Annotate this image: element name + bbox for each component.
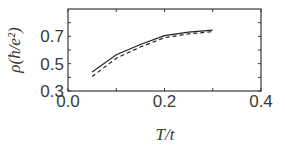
x-tick-labels: 0.00.20.4 <box>56 92 273 111</box>
x-tick-label: 0.0 <box>56 92 80 111</box>
x-tick-label: 0.2 <box>153 92 177 111</box>
y-tick-label: 0.5 <box>40 55 64 74</box>
x-axis-label: T/t <box>156 125 176 144</box>
plot-frame <box>68 9 261 91</box>
x-tick-label: 0.4 <box>249 92 273 111</box>
y-axis-label: ρ(ħ/e²) <box>5 27 24 74</box>
y-tick-labels: 0.30.50.7 <box>40 27 64 101</box>
series-line-solid <box>92 30 213 72</box>
line-chart: 0.30.50.7 0.00.20.4 T/t ρ(ħ/e²) <box>0 0 285 151</box>
axis-ticks <box>68 9 261 91</box>
data-series <box>92 30 213 76</box>
series-line-dashed <box>92 32 213 77</box>
y-tick-label: 0.7 <box>40 27 64 46</box>
